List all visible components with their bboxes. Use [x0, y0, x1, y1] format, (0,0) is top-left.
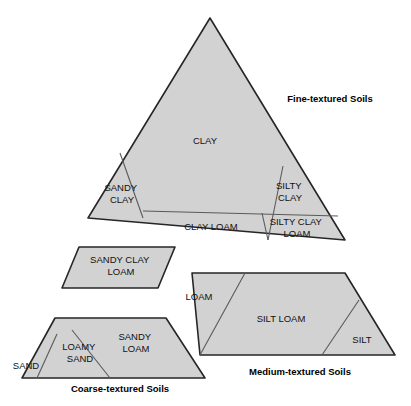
soil-texture-diagram: CLAY SANDY CLAY SILTY CLAY CLAY LOAM SIL…	[0, 0, 411, 406]
region-label-sand: SAND	[13, 360, 40, 371]
region-label-clay-loam: CLAY LOAM	[184, 221, 238, 232]
coarse-textured-group: SAND LOAMY SAND SANDY LOAM Coarse-textur…	[13, 318, 205, 394]
group-label-coarse-textured: Coarse-textured Soils	[71, 383, 169, 394]
coarse-trapezoid-shape	[22, 318, 205, 378]
region-label-silt-loam: SILT LOAM	[257, 313, 306, 324]
region-label-silt: SILT	[352, 334, 372, 345]
group-label-medium-textured: Medium-textured Soils	[249, 366, 351, 377]
region-label-loamy-sand: LOAMY SAND	[62, 341, 98, 364]
region-label-loam: LOAM	[186, 291, 213, 302]
region-label-clay: CLAY	[193, 135, 218, 146]
fine-textured-group: CLAY SANDY CLAY SILTY CLAY CLAY LOAM SIL…	[88, 18, 373, 240]
soil-texture-svg: CLAY SANDY CLAY SILTY CLAY CLAY LOAM SIL…	[0, 0, 411, 406]
region-label-sandy-loam: SANDY LOAM	[118, 331, 153, 354]
region-label-silty-clay: SILTY CLAY	[276, 180, 304, 203]
group-label-fine-textured: Fine-textured Soils	[287, 93, 373, 104]
fine-triangle-shape	[88, 18, 345, 240]
